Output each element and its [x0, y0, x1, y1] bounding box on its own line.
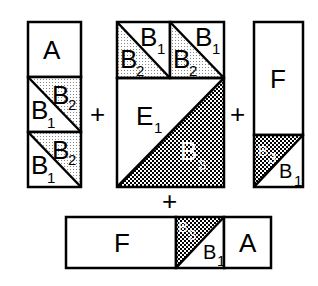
- top-square-2: B 1 B 2: [170, 22, 224, 79]
- bottom-row-piece: F B 3 B 1 A: [66, 217, 271, 269]
- center-block-piece: B 1 B 2 B 1 B 2 E 1 B 3: [117, 22, 224, 187]
- svg-text:2: 2: [68, 96, 76, 113]
- svg-text:B: B: [52, 135, 69, 165]
- svg-text:3: 3: [268, 149, 276, 166]
- svg-text:B: B: [279, 160, 292, 182]
- svg-text:1: 1: [47, 169, 55, 186]
- svg-text:B: B: [195, 22, 212, 52]
- label-f: F: [270, 64, 286, 94]
- label-e1: E: [136, 101, 153, 131]
- svg-text:B: B: [173, 44, 190, 74]
- hst-square-1: B 2 B 1: [28, 77, 81, 132]
- svg-text:3: 3: [188, 226, 196, 243]
- svg-text:B: B: [140, 22, 157, 52]
- svg-text:2: 2: [189, 62, 197, 79]
- label-b3: B: [180, 136, 197, 166]
- svg-text:B: B: [178, 218, 188, 235]
- svg-text:A: A: [239, 228, 257, 258]
- svg-text:1: 1: [212, 40, 220, 57]
- top-square-1: B 1 B 2: [117, 22, 170, 79]
- right-column-piece: F B 3 B 1: [254, 22, 303, 189]
- svg-text:1: 1: [154, 119, 162, 136]
- svg-text:B: B: [258, 142, 268, 159]
- svg-text:B: B: [31, 150, 48, 180]
- label-a: A: [43, 35, 61, 65]
- plus-sign: +: [230, 99, 245, 129]
- svg-text:1: 1: [47, 114, 55, 131]
- svg-text:2: 2: [68, 151, 76, 168]
- plus-sign: +: [90, 99, 105, 129]
- hst-square-2: B 2 B 1: [28, 132, 81, 187]
- svg-text:3: 3: [198, 156, 206, 173]
- svg-text:1: 1: [294, 172, 302, 189]
- left-column-piece: A B 2 B 1 B 2 B 1: [28, 22, 81, 187]
- svg-text:B: B: [203, 241, 216, 263]
- big-hst: E 1 B 3: [117, 78, 224, 187]
- svg-text:1: 1: [157, 40, 165, 57]
- svg-text:B: B: [120, 44, 137, 74]
- plus-sign: +: [162, 186, 177, 216]
- svg-text:F: F: [114, 228, 130, 258]
- svg-text:B: B: [52, 80, 69, 110]
- svg-text:B: B: [31, 95, 48, 125]
- quilt-block-diagram: A B 2 B 1 B 2 B 1 + B 1 B: [0, 0, 318, 286]
- svg-text:2: 2: [136, 62, 144, 79]
